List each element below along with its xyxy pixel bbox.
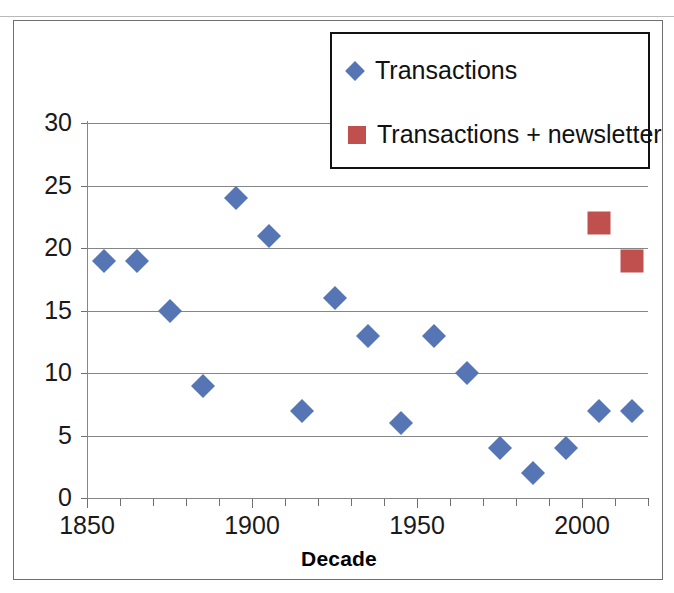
legend-item-label: Transactions	[375, 58, 517, 83]
x-axis-tick	[351, 499, 352, 506]
x-axis-tick-label: 1900	[224, 513, 280, 538]
data-point	[223, 186, 247, 210]
data-point	[388, 411, 412, 435]
data-point	[454, 361, 478, 385]
legend-item-label: Transactions + newsletter	[377, 122, 662, 147]
plot-area	[87, 123, 648, 498]
gridline	[87, 186, 648, 187]
x-axis-tick	[516, 499, 517, 506]
y-axis-tick-label: 10	[22, 360, 72, 385]
legend-item-transactions[interactable]: Transactions	[348, 58, 517, 83]
x-axis-tick-label: 1850	[59, 513, 115, 538]
x-axis-tick	[87, 499, 88, 508]
data-point	[256, 223, 280, 247]
x-axis-tick	[648, 499, 649, 506]
x-axis-tick	[252, 499, 253, 508]
gridline	[87, 498, 648, 499]
page-top-rule	[0, 16, 674, 17]
x-axis-tick-label: 2000	[554, 513, 610, 538]
x-axis-tick	[582, 499, 583, 508]
x-axis-tick	[318, 499, 319, 506]
data-point	[421, 323, 445, 347]
x-axis-tick	[285, 499, 286, 506]
data-point	[355, 323, 379, 347]
data-point	[586, 398, 610, 422]
gridline	[87, 248, 648, 249]
legend-item-transactions-newsletter[interactable]: Transactions + newsletter	[348, 122, 662, 147]
diamond-marker-icon	[345, 61, 365, 81]
data-point	[620, 249, 643, 272]
data-point	[322, 286, 346, 310]
x-axis-tick	[153, 499, 154, 506]
chart-figure: 302520151050 1850190019502000 Decade Tra…	[13, 20, 663, 580]
x-axis-tick	[384, 499, 385, 506]
data-point	[157, 298, 181, 322]
x-axis-tick	[417, 499, 418, 508]
y-axis-tick-label: 5	[22, 423, 72, 448]
gridline	[87, 373, 648, 374]
y-axis-tick-label: 15	[22, 298, 72, 323]
data-point	[619, 398, 643, 422]
data-point	[190, 373, 214, 397]
data-point	[124, 248, 148, 272]
data-point	[520, 461, 544, 485]
square-marker-icon	[348, 126, 366, 144]
data-point	[91, 248, 115, 272]
x-axis-tick	[219, 499, 220, 506]
x-axis-tick	[120, 499, 121, 506]
x-axis-title: Decade	[14, 547, 664, 571]
data-point	[553, 436, 577, 460]
x-axis-tick-label: 1950	[389, 513, 445, 538]
data-point	[487, 436, 511, 460]
y-axis-tick-label: 20	[22, 235, 72, 260]
y-axis-tick-label: 30	[22, 110, 72, 135]
x-axis-tick	[615, 499, 616, 506]
x-axis-tick	[186, 499, 187, 506]
x-axis-tick	[450, 499, 451, 506]
x-axis-tick	[483, 499, 484, 506]
y-axis-tick-label: 0	[22, 485, 72, 510]
y-axis-tick-label: 25	[22, 173, 72, 198]
chart-legend: Transactions Transactions + newsletter	[330, 32, 650, 169]
data-point	[587, 212, 610, 235]
x-axis-tick	[549, 499, 550, 506]
data-point	[289, 398, 313, 422]
